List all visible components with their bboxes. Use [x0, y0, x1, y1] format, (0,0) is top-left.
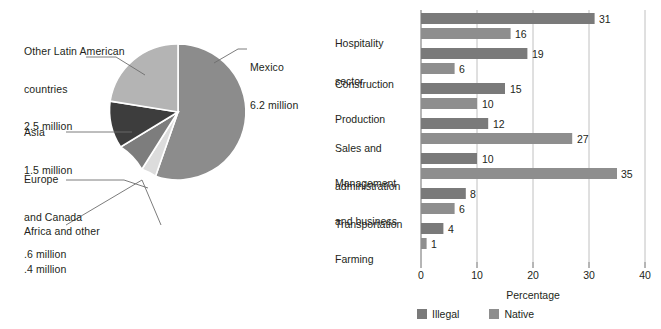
bar-value-production-illegal: 15	[510, 83, 522, 95]
bar-construction-native	[421, 63, 455, 74]
pie-label-mexico: Mexico 6.2 million	[250, 36, 298, 136]
bar-chart-legend: Illegal Native	[417, 308, 534, 320]
bar-value-transportation-native: 6	[459, 203, 465, 215]
bar-value-hospitality-sector-illegal: 31	[599, 13, 611, 25]
bar-construction-illegal	[421, 48, 527, 59]
figure-two-panel-immigration-charts: Other Latin American countries 2.5 milli…	[0, 0, 661, 329]
pie-label-mexico-line1: Mexico	[250, 61, 298, 74]
pie-label-africa-and-other-line1: Africa and other	[24, 225, 100, 238]
bar-category-label-farming-line1: Farming	[335, 253, 374, 266]
bar-management-and-business-native	[421, 168, 617, 179]
pie-label-other-latin-american-line1: Other Latin American	[24, 45, 125, 58]
bar-transportation-native	[421, 203, 455, 214]
legend-label-illegal: Illegal	[432, 308, 459, 320]
legend-item-illegal[interactable]: Illegal	[417, 308, 459, 320]
bar-chart-xaxis-ticks	[421, 262, 645, 268]
bar-value-hospitality-sector-native: 16	[515, 28, 527, 40]
bar-value-sales-and-administration-native: 27	[577, 133, 589, 145]
pie-label-europe-and-canada-line1: Europe	[24, 173, 82, 186]
bar-xtick-label-0: 0	[418, 269, 424, 281]
bar-category-label-hospitality-sector-line1: Hospitality	[335, 37, 383, 50]
pie-label-africa-and-other-line2: .4 million	[24, 263, 100, 276]
bar-production-native	[421, 98, 477, 109]
bar-group-hospitality-sector	[421, 13, 595, 39]
bar-xtick-label-20: 20	[527, 269, 539, 281]
bar-value-farming-illegal: 4	[448, 223, 454, 235]
bar-group-management-and-business	[421, 153, 617, 179]
bar-sales-and-administration-illegal	[421, 118, 488, 129]
bar-hospitality-sector-native	[421, 28, 511, 39]
bar-hospitality-sector-illegal	[421, 13, 595, 24]
bar-value-management-and-business-illegal: 10	[482, 153, 494, 165]
bar-value-management-and-business-native: 35	[621, 168, 633, 180]
bar-value-production-native: 10	[482, 98, 494, 110]
bar-value-construction-native: 6	[459, 63, 465, 75]
pie-label-africa-and-other: Africa and other .4 million	[24, 200, 100, 300]
legend-label-native: Native	[504, 308, 534, 320]
bar-value-farming-native: 1	[431, 238, 437, 250]
bar-production-illegal	[421, 83, 505, 94]
bar-sales-and-administration-native	[421, 133, 572, 144]
bar-farming-illegal	[421, 223, 443, 234]
bar-value-sales-and-administration-illegal: 12	[493, 118, 505, 130]
bar-group-construction	[421, 48, 527, 74]
bar-chart-panel: Hospitality sector Construction Producti…	[330, 0, 661, 329]
bar-management-and-business-illegal	[421, 153, 477, 164]
bar-xaxis-title: Percentage	[506, 289, 560, 301]
legend-swatch-native	[489, 309, 499, 319]
legend-item-native[interactable]: Native	[489, 308, 534, 320]
bar-category-label-farming: Farming	[335, 228, 374, 291]
bar-xtick-label-30: 30	[583, 269, 595, 281]
bar-value-construction-illegal: 19	[532, 48, 544, 60]
bar-value-transportation-illegal: 8	[470, 188, 476, 200]
pie-label-asia-line1: Asia	[24, 126, 72, 139]
pie-slices	[110, 44, 246, 180]
pie-label-other-latin-american-line2: countries	[24, 83, 125, 96]
bar-xtick-label-10: 10	[471, 269, 483, 281]
legend-swatch-illegal	[417, 309, 427, 319]
bar-xtick-label-40: 40	[639, 269, 651, 281]
pie-label-mexico-line2: 6.2 million	[250, 99, 298, 112]
bar-transportation-illegal	[421, 188, 466, 199]
pie-chart-panel: Other Latin American countries 2.5 milli…	[0, 0, 330, 329]
bar-farming-native	[421, 238, 427, 249]
bar-category-label-management-and-business-line1: Management	[335, 177, 397, 190]
